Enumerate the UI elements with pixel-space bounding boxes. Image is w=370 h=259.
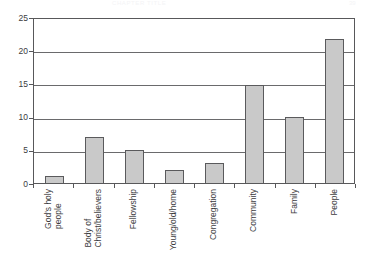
bar-family[interactable] [285, 117, 304, 183]
x-axis-label-slot: God's holy people [33, 189, 73, 259]
bar-slot [234, 19, 274, 183]
y-axis-tick-label-15: 15 [0, 80, 28, 89]
y-axis-tick-label-25: 25 [0, 14, 28, 23]
bar-series [34, 19, 354, 183]
x-axis-label-slot: People [315, 189, 355, 259]
x-axis-tick-mark [33, 184, 34, 188]
bar-slot [154, 19, 194, 183]
y-axis-tick-label-0: 0 [0, 180, 28, 189]
x-axis-label-community: Community [250, 189, 260, 232]
bar-slot [274, 19, 314, 183]
x-axis-tick-mark [114, 184, 115, 188]
x-axis-label-line1: Community [249, 189, 259, 232]
bar-fellowship[interactable] [125, 150, 144, 183]
x-axis-tick-mark [73, 184, 74, 188]
x-axis-label-slot: Fellowship [114, 189, 154, 259]
x-axis-label-slot: Family [275, 189, 315, 259]
x-axis-label-slot: Congregation [194, 189, 234, 259]
x-axis-tick-mark [234, 184, 235, 188]
bar-gods-holy-people[interactable] [45, 176, 64, 183]
plot-area [33, 18, 355, 184]
y-axis-tick-label-20: 20 [0, 47, 28, 56]
x-axis-label-line1: Fellowship [128, 189, 138, 229]
bar-chart: 25 20 15 10 5 0 [0, 0, 370, 259]
bar-slot [74, 19, 114, 183]
bar-community[interactable] [245, 85, 264, 183]
x-axis-tick-mark [275, 184, 276, 188]
x-axis-label-fellowship: Fellowship [129, 189, 139, 229]
x-axis-label-line1: Young/old/home [168, 189, 178, 250]
x-axis-label-line2: people [53, 189, 63, 229]
bar-young-old-home[interactable] [165, 170, 184, 183]
x-axis-tick-mark [154, 184, 155, 188]
bar-congregation[interactable] [205, 163, 224, 183]
bar-slot [194, 19, 234, 183]
x-axis-label-slot: Community [234, 189, 274, 259]
x-axis-label-young-old-home: Young/old/home [169, 189, 179, 250]
x-axis-label-congregation: Congregation [209, 189, 219, 240]
bar-people[interactable] [325, 39, 344, 183]
bar-slot [34, 19, 74, 183]
x-axis-label-line1: God's holy [43, 189, 53, 229]
x-axis-tick-mark [315, 184, 316, 188]
bar-body-of-christ-believers[interactable] [85, 137, 104, 183]
x-axis-label-people: People [330, 189, 340, 215]
x-axis-label-line1: Congregation [208, 189, 218, 240]
x-axis-label-line1: People [329, 189, 339, 215]
x-axis-labels: God's holy people Body of Christ/believe… [33, 189, 355, 259]
x-axis-tick-mark [355, 184, 356, 188]
x-axis-tick-mark [194, 184, 195, 188]
x-axis-label-gods-holy-people: God's holy people [44, 189, 63, 229]
x-axis-label-body-of-christ-believers: Body of Christ/believers [84, 189, 103, 248]
x-axis-label-family: Family [290, 189, 300, 214]
x-axis-label-line1: Body of [83, 219, 93, 248]
y-axis-tick-label-5: 5 [0, 146, 28, 155]
x-axis-label-slot: Young/old/home [154, 189, 194, 259]
bar-slot [114, 19, 154, 183]
x-axis-label-slot: Body of Christ/believers [73, 189, 113, 259]
y-axis-tick-label-10: 10 [0, 113, 28, 122]
x-axis-label-line1: Family [289, 189, 299, 214]
x-axis-label-line2: Christ/believers [93, 189, 103, 248]
bar-slot [314, 19, 354, 183]
